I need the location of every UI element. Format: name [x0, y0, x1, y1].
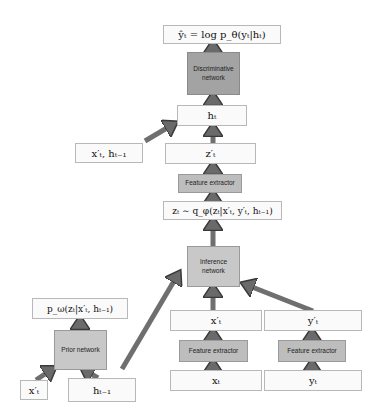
- feature-extractor-z-label: Feature extractor: [185, 179, 235, 187]
- y-prime-box: y′ₜ: [264, 310, 362, 331]
- z-prime-box: z′ₜ: [165, 143, 256, 164]
- feature-extractor-y-box: Feature extractor: [278, 340, 346, 362]
- prior-network-box: Prior network: [54, 330, 107, 370]
- inference-network-box: Inference network: [187, 246, 240, 287]
- h-t-box: hₜ: [177, 105, 247, 126]
- feature-extractor-x-box: Feature extractor: [179, 340, 248, 362]
- h-prev-label: hₜ₋₁: [93, 385, 111, 396]
- prior-label: p_ω(zₜ|x′ₜ, hₜ₋₁): [47, 304, 113, 314]
- posterior-label: zₜ ∼ q_φ(zₜ|x′ₜ, y′ₜ, hₜ₋₁): [172, 206, 272, 216]
- feature-extractor-z-box: Feature extractor: [178, 174, 242, 193]
- y-t-box: yₜ: [264, 370, 362, 391]
- arrow-xprime-small-to-priornet: [36, 370, 51, 380]
- x-prime-small-box: x′ₜ: [20, 380, 48, 400]
- discriminative-network-box: Discriminative network: [187, 52, 240, 95]
- discriminative-network-label: Discriminative network: [188, 65, 239, 81]
- input-pair-box: x′ₜ, hₜ₋₁: [75, 143, 143, 163]
- prior-box: p_ω(zₜ|x′ₜ, hₜ₋₁): [32, 298, 128, 319]
- inference-network-label: Inference network: [188, 258, 239, 274]
- input-pair-label: x′ₜ, hₜ₋₁: [92, 148, 127, 159]
- x-t-label: xₜ: [212, 375, 220, 386]
- z-prime-label: z′ₜ: [205, 148, 215, 159]
- arrow-input-pair-to-ht: [145, 125, 172, 141]
- arrow-hprev-to-priornet: [86, 371, 98, 378]
- output-box: ŷₜ = log p_θ(yₜ|hₜ): [163, 25, 281, 44]
- x-prime-small-label: x′ₜ: [29, 385, 39, 396]
- feature-extractor-y-label: Feature extractor: [287, 347, 337, 355]
- h-t-label: hₜ: [208, 110, 217, 121]
- h-prev-box: hₜ₋₁: [68, 378, 136, 402]
- x-t-box: xₜ: [170, 370, 262, 391]
- arrow-hprev-to-inf: [122, 276, 177, 369]
- x-prime-label: x′ₜ: [211, 315, 221, 326]
- output-label: ŷₜ = log p_θ(yₜ|hₜ): [178, 29, 265, 40]
- model-architecture-diagram: ŷₜ = log p_θ(yₜ|hₜ) Discriminative netwo…: [0, 0, 385, 413]
- x-prime-box: x′ₜ: [170, 310, 262, 331]
- posterior-box: zₜ ∼ q_φ(zₜ|x′ₜ, y′ₜ, hₜ₋₁): [163, 201, 282, 220]
- feature-extractor-x-label: Feature extractor: [189, 347, 239, 355]
- y-prime-label: y′ₜ: [308, 315, 318, 326]
- arrow-yprime-to-inf: [247, 285, 313, 311]
- prior-network-label: Prior network: [61, 346, 99, 354]
- y-t-label: yₜ: [309, 375, 317, 386]
